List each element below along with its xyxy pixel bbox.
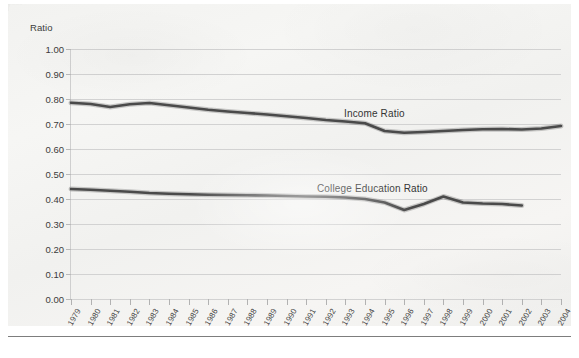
x-tick-mark bbox=[502, 299, 503, 305]
x-tick-label: 1979 bbox=[66, 307, 83, 327]
x-tick-label: 1996 bbox=[399, 307, 416, 327]
x-tick-mark bbox=[149, 299, 150, 305]
x-tick-label: 1984 bbox=[164, 307, 181, 327]
x-tick-label: 2001 bbox=[497, 307, 514, 327]
y-tick-label: 1.00 bbox=[46, 44, 65, 55]
x-tick-mark bbox=[91, 299, 92, 305]
series-line-income-ratio bbox=[71, 103, 561, 133]
y-tick-label: 0.70 bbox=[46, 119, 65, 130]
x-tick-label: 1983 bbox=[144, 307, 161, 327]
series-line-college-education-ratio bbox=[71, 189, 522, 210]
x-tick-mark bbox=[130, 299, 131, 305]
x-tick-label: 1992 bbox=[321, 307, 338, 327]
x-tick-label: 1994 bbox=[360, 307, 377, 327]
x-tick-mark bbox=[424, 299, 425, 305]
x-tick-mark bbox=[561, 299, 562, 305]
x-tick-mark bbox=[228, 299, 229, 305]
y-tick-label: 0.90 bbox=[46, 69, 65, 80]
x-tick-label: 1995 bbox=[379, 307, 396, 327]
x-tick-mark bbox=[404, 299, 405, 305]
x-tick-mark bbox=[385, 299, 386, 305]
x-tick-mark bbox=[306, 299, 307, 305]
x-tick-label: 1991 bbox=[301, 307, 318, 327]
chart-figure: Ratio 0.000.100.200.300.400.500.600.700.… bbox=[0, 0, 579, 358]
x-tick-label: 2000 bbox=[477, 307, 494, 327]
x-tick-mark bbox=[189, 299, 190, 305]
x-tick-mark bbox=[110, 299, 111, 305]
series-label-income-ratio: Income Ratio bbox=[344, 108, 405, 119]
x-tick-mark bbox=[345, 299, 346, 305]
x-tick-label: 1987 bbox=[223, 307, 240, 327]
x-tick-mark bbox=[522, 299, 523, 305]
footer-divider bbox=[8, 336, 571, 337]
gridline bbox=[71, 299, 561, 300]
series-layer bbox=[71, 49, 561, 299]
x-tick-label: 1985 bbox=[183, 307, 200, 327]
x-tick-label: 2003 bbox=[536, 307, 553, 327]
x-tick-label: 1986 bbox=[203, 307, 220, 327]
x-tick-label: 1993 bbox=[340, 307, 357, 327]
x-tick-mark bbox=[208, 299, 209, 305]
x-tick-label: 1997 bbox=[419, 307, 436, 327]
plot-area: 0.000.100.200.300.400.500.600.700.800.90… bbox=[71, 49, 561, 299]
x-tick-mark bbox=[326, 299, 327, 305]
x-tick-label: 2004 bbox=[556, 307, 573, 327]
x-tick-mark bbox=[443, 299, 444, 305]
chart-panel: Ratio 0.000.100.200.300.400.500.600.700.… bbox=[8, 4, 571, 326]
y-tick-label: 0.40 bbox=[46, 194, 65, 205]
x-tick-label: 1988 bbox=[242, 307, 259, 327]
x-tick-mark bbox=[71, 299, 72, 305]
x-tick-label: 1998 bbox=[438, 307, 455, 327]
x-tick-mark bbox=[267, 299, 268, 305]
x-tick-mark bbox=[287, 299, 288, 305]
x-tick-label: 1990 bbox=[281, 307, 298, 327]
x-tick-label: 1980 bbox=[85, 307, 102, 327]
y-tick-label: 0.00 bbox=[46, 294, 65, 305]
x-tick-mark bbox=[463, 299, 464, 305]
x-tick-mark bbox=[169, 299, 170, 305]
x-tick-mark bbox=[483, 299, 484, 305]
x-tick-mark bbox=[247, 299, 248, 305]
y-tick-label: 0.60 bbox=[46, 144, 65, 155]
x-tick-mark bbox=[365, 299, 366, 305]
y-tick-label: 0.20 bbox=[46, 244, 65, 255]
y-tick-label: 0.50 bbox=[46, 169, 65, 180]
x-tick-mark bbox=[541, 299, 542, 305]
y-tick-label: 0.30 bbox=[46, 219, 65, 230]
y-axis-title: Ratio bbox=[30, 22, 53, 33]
x-tick-label: 2002 bbox=[517, 307, 534, 327]
y-tick-label: 0.10 bbox=[46, 269, 65, 280]
x-tick-label: 1981 bbox=[105, 307, 122, 327]
y-tick-label: 0.80 bbox=[46, 94, 65, 105]
x-tick-label: 1999 bbox=[458, 307, 475, 327]
x-tick-label: 1982 bbox=[125, 307, 142, 327]
x-tick-label: 1989 bbox=[262, 307, 279, 327]
series-label-college-education-ratio: College Education Ratio bbox=[317, 183, 428, 194]
